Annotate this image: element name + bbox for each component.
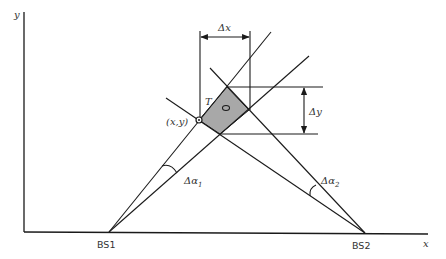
triangulation-diagram: y x Δx Δy (x,y) T Δα1 Δα2 BS1 BS2 [0,0,446,259]
y-axis-label: y [13,9,20,20]
angle-arc-alpha2 [310,185,316,196]
bs2-bearing-line-right [210,68,365,233]
point-label: (x,y) [166,116,188,127]
station-label-bs2: BS2 [352,240,370,251]
delta-y-label: Δy [308,106,322,117]
bs1-bearing-line-lower [109,56,309,232]
bs1-bearing-line-upper [109,32,271,232]
x-axis [24,232,428,234]
bs2-bearing-line-left [166,98,365,233]
x-axis-label: x [423,238,429,249]
station-label-bs1: BS1 [97,239,115,250]
angle-arc-alpha1 [162,165,177,173]
estimated-point-center [198,119,200,121]
delta-x-label: Δx [217,22,231,33]
angle-label-alpha1: Δα1 [183,175,202,189]
angle-label-alpha2: Δα2 [320,175,340,189]
